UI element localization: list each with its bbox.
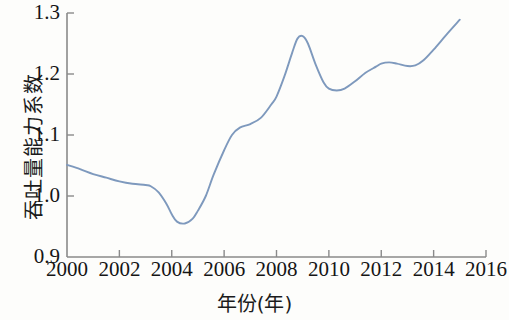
x-tick-label-2010: 2010 bbox=[299, 259, 359, 280]
x-tick-label-2004: 2004 bbox=[142, 259, 202, 280]
chart-figure: 吞吐量能力系数 0.91.01.11.21.3 2000200220042006… bbox=[0, 0, 509, 320]
x-axis-title: 年份(年) bbox=[0, 288, 509, 317]
x-tick-label-2002: 2002 bbox=[89, 259, 149, 280]
x-tick-label-2000: 2000 bbox=[37, 259, 97, 280]
x-tick-label-2012: 2012 bbox=[351, 259, 411, 280]
x-tick-label-2008: 2008 bbox=[247, 259, 307, 280]
y-axis-ticks bbox=[67, 13, 74, 196]
x-tick-label-2014: 2014 bbox=[404, 259, 464, 280]
x-axis-ticks bbox=[119, 250, 486, 257]
x-tick-label-2006: 2006 bbox=[194, 259, 254, 280]
data-line-series-0 bbox=[67, 20, 460, 224]
x-tick-label-2016: 2016 bbox=[456, 259, 509, 280]
x-axis-tick-labels: 200020022004200620082010201220142016 bbox=[0, 259, 509, 291]
